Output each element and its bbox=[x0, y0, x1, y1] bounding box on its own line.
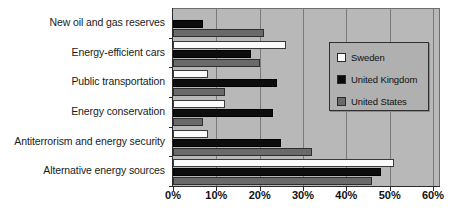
y-tick-mark bbox=[169, 67, 173, 68]
category-label: Antiterrorism and energy security bbox=[0, 136, 165, 147]
bar-group bbox=[173, 130, 439, 156]
bar-uk bbox=[173, 20, 203, 28]
x-tick-mark bbox=[260, 187, 261, 191]
bar-sweden bbox=[173, 41, 286, 49]
x-tick-mark bbox=[346, 187, 347, 191]
bar-chart: New oil and gas reservesEnergy-efficient… bbox=[0, 0, 459, 220]
bar-sweden bbox=[173, 70, 208, 78]
x-tick-mark bbox=[303, 187, 304, 191]
y-tick-mark bbox=[169, 97, 173, 98]
bar-sweden bbox=[173, 130, 208, 138]
bar-uk bbox=[173, 109, 273, 117]
legend-swatch-icon bbox=[337, 97, 346, 106]
legend-swatch-icon bbox=[337, 53, 346, 62]
category-label: Public transportation bbox=[0, 76, 165, 87]
value-axis: 0%10%20%30%40%50%60% bbox=[0, 189, 459, 209]
category-label: Energy-efficient cars bbox=[0, 47, 165, 58]
x-tick-mark bbox=[433, 187, 434, 191]
bar-uk bbox=[173, 139, 281, 147]
bar-us bbox=[173, 118, 203, 126]
legend-item-uk[interactable]: United Kingdom bbox=[337, 73, 417, 85]
bar-group bbox=[173, 159, 439, 185]
bar-group bbox=[173, 11, 439, 37]
x-tick-mark bbox=[216, 187, 217, 191]
legend-label: United Kingdom bbox=[351, 74, 417, 85]
category-label: Alternative energy sources bbox=[0, 165, 165, 176]
bar-us bbox=[173, 88, 225, 96]
bar-sweden bbox=[173, 159, 394, 167]
bar-us bbox=[173, 59, 260, 67]
legend-label: United States bbox=[351, 96, 407, 107]
x-tick-mark bbox=[390, 187, 391, 191]
category-label: New oil and gas reserves bbox=[0, 17, 165, 28]
legend-swatch-icon bbox=[337, 75, 346, 84]
bar-us bbox=[173, 177, 372, 185]
category-axis: New oil and gas reservesEnergy-efficient… bbox=[0, 8, 169, 186]
y-tick-mark bbox=[169, 156, 173, 157]
chart-legend: SwedenUnited KingdomUnited States bbox=[329, 42, 429, 111]
legend-item-us[interactable]: United States bbox=[337, 95, 407, 107]
category-label: Energy conservation bbox=[0, 106, 165, 117]
y-tick-mark bbox=[169, 127, 173, 128]
bar-us bbox=[173, 148, 312, 156]
y-tick-mark bbox=[169, 38, 173, 39]
x-axis-line bbox=[172, 186, 440, 187]
bar-uk bbox=[173, 50, 251, 58]
y-tick-mark bbox=[169, 186, 173, 187]
x-tick-mark bbox=[173, 187, 174, 191]
legend-label: Sweden bbox=[351, 52, 385, 63]
bar-sweden bbox=[173, 100, 225, 108]
bar-us bbox=[173, 29, 264, 37]
bar-uk bbox=[173, 168, 381, 176]
legend-item-sweden[interactable]: Sweden bbox=[337, 51, 385, 63]
bar-uk bbox=[173, 79, 277, 87]
